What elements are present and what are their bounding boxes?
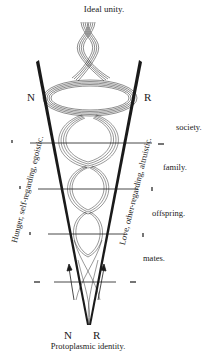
pole-label-right-bottom: R [93,329,101,341]
upper-loop [43,80,137,116]
level-label-offspring: offspring. [152,208,185,218]
braided-rope-top [72,22,110,81]
left-wall-N [36,60,89,325]
top-label: Ideal unity. [84,4,124,14]
pole-label-right-top: R [144,91,152,103]
evolution-cone-diagram: Ideal unity. [0,0,210,353]
level-label-family: family. [163,162,187,172]
cone-walls [36,60,142,325]
level-label-society: society. [176,122,202,132]
bottom-label: Protoplasmic identity. [51,341,126,351]
level-label-mates: mates. [143,253,165,263]
pole-label-left-bottom: N [64,329,72,341]
left-arrow-icon [69,268,74,300]
pole-label-left-top: N [27,91,35,103]
